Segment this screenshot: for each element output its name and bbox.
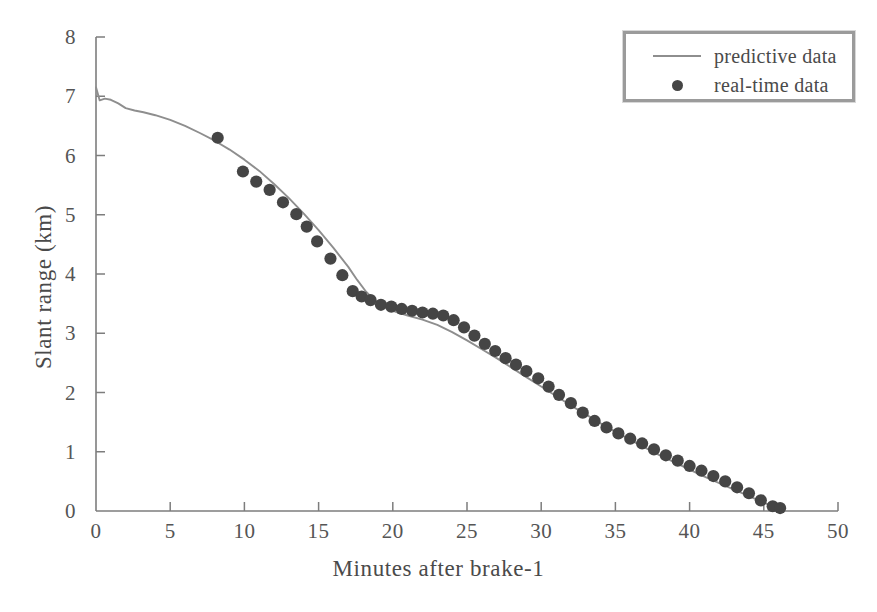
legend-inner-frame: predictive data real-time data [629, 37, 849, 96]
x-tick-label: 15 [308, 519, 330, 544]
data-point [672, 455, 684, 467]
y-axis-title: Slant range (km) [31, 167, 57, 407]
x-axis-ticks [170, 502, 838, 511]
x-tick-label: 10 [233, 519, 255, 544]
real-time-data-points [212, 132, 787, 515]
data-point [375, 299, 387, 311]
data-point [707, 470, 719, 482]
data-point [577, 407, 589, 419]
data-point [743, 487, 755, 499]
x-tick-label: 20 [382, 519, 404, 544]
data-point [731, 481, 743, 493]
data-point [212, 132, 224, 144]
legend-label-real-time-data: real-time data [714, 74, 829, 97]
data-point [600, 421, 612, 433]
data-point [543, 380, 555, 392]
data-point [695, 465, 707, 477]
data-point [520, 365, 532, 377]
data-point [237, 165, 249, 177]
x-tick-label: 0 [91, 519, 102, 544]
data-point [290, 208, 302, 220]
legend-entry-predictive-data: predictive data [640, 41, 840, 71]
legend-line-swatch [640, 55, 714, 57]
data-point [250, 175, 262, 187]
data-point [719, 475, 731, 487]
y-tick-label: 6 [42, 143, 76, 168]
data-point [448, 314, 460, 326]
data-point [277, 196, 289, 208]
data-point [684, 460, 696, 472]
data-point [660, 449, 672, 461]
data-point [324, 253, 336, 265]
data-point [624, 433, 636, 445]
y-tick-label: 8 [42, 25, 76, 50]
chart-legend: predictive data real-time data [623, 31, 855, 102]
data-point [479, 338, 491, 350]
y-tick-label: 0 [42, 499, 76, 524]
data-point [416, 306, 428, 318]
data-point [406, 305, 418, 317]
data-point [565, 397, 577, 409]
x-tick-label: 5 [165, 519, 176, 544]
predictive-data-line [96, 87, 783, 511]
data-point [364, 294, 376, 306]
data-point [499, 352, 511, 364]
x-tick-label: 30 [530, 519, 552, 544]
data-point [532, 372, 544, 384]
data-point [458, 321, 470, 333]
axis-lines [96, 37, 838, 511]
data-point [336, 269, 348, 281]
data-point [510, 359, 522, 371]
data-point [311, 235, 323, 247]
data-point [755, 494, 767, 506]
data-point [301, 221, 313, 233]
x-tick-label: 50 [827, 519, 849, 544]
data-point [427, 308, 439, 320]
x-tick-label: 35 [604, 519, 626, 544]
data-point [589, 415, 601, 427]
data-point [489, 345, 501, 357]
x-axis-title: Minutes after brake-1 [0, 556, 877, 582]
data-point [396, 303, 408, 315]
x-tick-label: 40 [679, 519, 701, 544]
legend-dot-swatch [640, 80, 714, 91]
data-point [648, 443, 660, 455]
legend-entry-real-time-data: real-time data [640, 70, 840, 100]
x-tick-label: 45 [753, 519, 775, 544]
data-point [553, 389, 565, 401]
y-tick-label: 7 [42, 84, 76, 109]
data-point [612, 427, 624, 439]
data-point [385, 300, 397, 312]
data-point [636, 437, 648, 449]
chart-figure: 05101520253035404550012345678 Minutes af… [0, 0, 877, 612]
y-tick-label: 1 [42, 439, 76, 464]
data-point [437, 309, 449, 321]
legend-label-predictive-data: predictive data [714, 45, 837, 68]
data-point [264, 184, 276, 196]
data-point [774, 502, 786, 514]
data-point [468, 330, 480, 342]
x-tick-label: 25 [456, 519, 478, 544]
